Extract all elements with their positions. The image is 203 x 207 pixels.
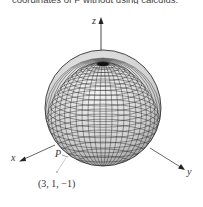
p-leader xyxy=(62,155,68,157)
y-axis-arrow-icon xyxy=(178,164,185,170)
guide-line xyxy=(57,158,66,172)
z-axis-arrow-icon xyxy=(99,17,104,24)
x-axis-arrow-icon xyxy=(19,157,26,162)
y-axis xyxy=(150,148,182,168)
sphere-diagram xyxy=(0,0,203,207)
point-p-label: P xyxy=(55,148,61,159)
x-axis xyxy=(22,145,55,160)
x-axis-label: x xyxy=(11,152,15,163)
external-point-dot xyxy=(56,171,58,173)
external-point-label: (3, 1, −1) xyxy=(38,178,75,189)
sphere-mesh xyxy=(45,50,161,176)
y-axis-label: y xyxy=(187,166,191,177)
north-pole xyxy=(97,62,109,66)
z-axis-label: z xyxy=(92,15,96,26)
